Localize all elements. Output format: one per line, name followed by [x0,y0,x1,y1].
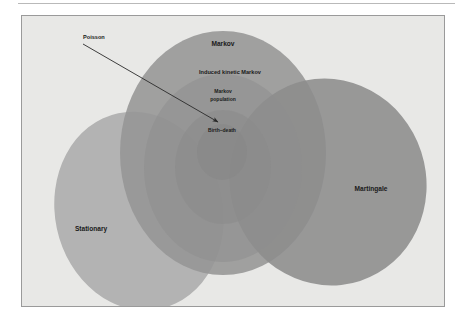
set-label-markov-population-line1: Markov [214,88,232,94]
set-label-stationary: Stationary [75,225,108,233]
set-label-markov: Markov [211,40,234,47]
set-label-induced-kinetic-markov: Induced kinetic Markov [199,69,262,75]
figure-root: Markov Induced kinetic Markov Markov pop… [0,0,463,325]
set-label-martingale: Martingale [355,185,388,193]
set-label-birth-death: Birth–death [208,127,236,133]
venn-diagram-panel: Markov Induced kinetic Markov Markov pop… [21,15,445,307]
set-label-markov-population-line2: population [210,96,236,102]
top-horizontal-rule [18,3,455,4]
venn-diagram-svg: Markov Induced kinetic Markov Markov pop… [22,16,444,306]
annotation-label-poisson: Poisson [83,34,105,40]
